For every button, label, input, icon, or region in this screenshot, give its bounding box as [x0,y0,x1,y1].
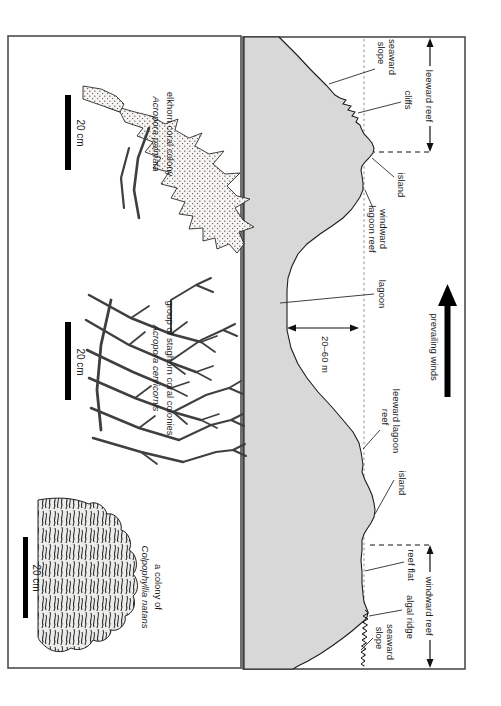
windward-lagoon-reef-label-1: windward [378,208,389,249]
scale-bar [23,537,28,618]
zone-right-label: windward reef [424,575,435,635]
seaward-slope-left-label-2: slope [376,42,387,65]
wind-label: prevailing winds [429,313,440,381]
reef-flat-label: reef flat [406,549,417,581]
scale-bar [65,95,71,170]
island-left-label: island [396,173,407,198]
leeward-lagoon-reef-label-1: leeward lagoon [391,389,402,453]
scale-label: 20 cm [75,348,86,375]
lagoon-depth-label: 20–60 m [320,336,331,373]
coral-species: Acropora palmata [151,96,162,172]
reef-figure-svg: leeward reef windward reef prevailing wi… [0,0,501,706]
windward-lagoon-reef-label-2: lagoon reef [367,205,378,253]
lagoon-label: lagoon [377,280,388,309]
scale-label: 20 cm [75,119,86,146]
coral-name: elkhorn coral colony [165,92,176,177]
island-right-label: island [397,471,408,496]
coral-name: a colony of [153,564,164,610]
scale-label: 20 cm [31,564,42,591]
coral-name: group of staghorn coral colonies [165,300,176,435]
scale-bar [65,322,71,400]
seaward-slope-right-label-1: seaward [385,624,396,660]
seaward-slope-left-label-1: seaward [387,39,398,75]
seaward-slope-right-label-2: slope [374,627,385,650]
algal-ridge-label: algal ridge [405,595,416,639]
coral-species: Acropora cervicornis [151,324,162,412]
rotated-figure: leeward reef windward reef prevailing wi… [0,0,501,706]
zone-left-label: leeward reef [424,70,435,123]
cliffs-label: cliffs [403,91,414,110]
coral-species: Colpophyllia natans [140,546,151,629]
leeward-lagoon-reef-label-2: reef [380,409,391,426]
